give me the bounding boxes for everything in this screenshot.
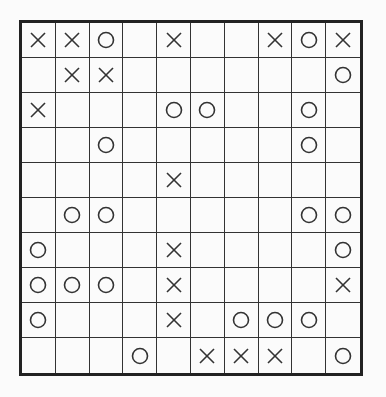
grid-cell-r2-c5[interactable] [191,93,225,128]
grid-cell-r8-c1[interactable] [56,303,90,338]
grid-cell-r8-c6[interactable] [225,303,259,338]
grid-cell-r1-c9[interactable] [326,58,360,93]
grid-cell-r5-c0[interactable] [22,198,56,233]
grid-cell-r2-c4[interactable] [157,93,191,128]
grid-cell-r2-c7[interactable] [259,93,293,128]
grid-cell-r7-c8[interactable] [292,268,326,303]
grid-cell-r8-c3[interactable] [123,303,157,338]
grid-cell-r1-c0[interactable] [22,58,56,93]
grid-cell-r0-c7[interactable] [259,23,293,58]
grid-cell-r6-c5[interactable] [191,233,225,268]
grid-cell-r4-c7[interactable] [259,163,293,198]
grid-cell-r6-c9[interactable] [326,233,360,268]
grid-cell-r3-c4[interactable] [157,128,191,163]
grid-cell-r8-c8[interactable] [292,303,326,338]
grid-cell-r6-c6[interactable] [225,233,259,268]
grid-cell-r5-c3[interactable] [123,198,157,233]
grid-cell-r7-c3[interactable] [123,268,157,303]
grid-cell-r2-c2[interactable] [90,93,124,128]
grid-cell-r4-c2[interactable] [90,163,124,198]
grid-cell-r0-c6[interactable] [225,23,259,58]
grid-cell-r8-c5[interactable] [191,303,225,338]
grid-cell-r8-c7[interactable] [259,303,293,338]
grid-cell-r5-c1[interactable] [56,198,90,233]
grid-cell-r4-c5[interactable] [191,163,225,198]
grid-cell-r8-c2[interactable] [90,303,124,338]
grid-cell-r2-c6[interactable] [225,93,259,128]
grid-cell-r1-c4[interactable] [157,58,191,93]
grid-cell-r0-c5[interactable] [191,23,225,58]
grid-cell-r0-c3[interactable] [123,23,157,58]
grid-cell-r7-c9[interactable] [326,268,360,303]
grid-cell-r0-c8[interactable] [292,23,326,58]
grid-cell-r0-c2[interactable] [90,23,124,58]
grid-cell-r1-c5[interactable] [191,58,225,93]
grid-cell-r5-c2[interactable] [90,198,124,233]
grid-cell-r7-c6[interactable] [225,268,259,303]
grid-cell-r2-c0[interactable] [22,93,56,128]
grid-cell-r6-c1[interactable] [56,233,90,268]
grid-cell-r9-c1[interactable] [56,338,90,373]
grid-cell-r1-c1[interactable] [56,58,90,93]
grid-cell-r3-c8[interactable] [292,128,326,163]
grid-cell-r4-c1[interactable] [56,163,90,198]
grid-cell-r6-c8[interactable] [292,233,326,268]
grid-cell-r9-c9[interactable] [326,338,360,373]
grid-cell-r4-c4[interactable] [157,163,191,198]
grid-cell-r4-c9[interactable] [326,163,360,198]
grid-cell-r9-c4[interactable] [157,338,191,373]
grid-cell-r2-c1[interactable] [56,93,90,128]
grid-cell-r0-c1[interactable] [56,23,90,58]
grid-cell-r7-c5[interactable] [191,268,225,303]
grid-cell-r5-c9[interactable] [326,198,360,233]
grid-cell-r0-c0[interactable] [22,23,56,58]
grid-cell-r3-c5[interactable] [191,128,225,163]
grid-cell-r1-c8[interactable] [292,58,326,93]
grid-cell-r3-c9[interactable] [326,128,360,163]
grid-cell-r9-c3[interactable] [123,338,157,373]
grid-cell-r5-c4[interactable] [157,198,191,233]
grid-cell-r9-c5[interactable] [191,338,225,373]
grid-cell-r5-c7[interactable] [259,198,293,233]
grid-cell-r8-c0[interactable] [22,303,56,338]
grid-cell-r8-c9[interactable] [326,303,360,338]
grid-cell-r7-c0[interactable] [22,268,56,303]
grid-cell-r2-c3[interactable] [123,93,157,128]
grid-cell-r3-c7[interactable] [259,128,293,163]
grid-cell-r6-c0[interactable] [22,233,56,268]
grid-cell-r0-c9[interactable] [326,23,360,58]
grid-cell-r7-c2[interactable] [90,268,124,303]
grid-cell-r5-c8[interactable] [292,198,326,233]
grid-cell-r7-c1[interactable] [56,268,90,303]
grid-cell-r1-c7[interactable] [259,58,293,93]
grid-cell-r7-c7[interactable] [259,268,293,303]
grid-cell-r9-c7[interactable] [259,338,293,373]
grid-cell-r9-c6[interactable] [225,338,259,373]
grid-cell-r4-c6[interactable] [225,163,259,198]
grid-cell-r6-c4[interactable] [157,233,191,268]
grid-cell-r3-c3[interactable] [123,128,157,163]
grid-cell-r0-c4[interactable] [157,23,191,58]
grid-cell-r5-c5[interactable] [191,198,225,233]
grid-cell-r1-c2[interactable] [90,58,124,93]
grid-cell-r3-c0[interactable] [22,128,56,163]
grid-cell-r6-c7[interactable] [259,233,293,268]
grid-cell-r4-c8[interactable] [292,163,326,198]
grid-cell-r4-c0[interactable] [22,163,56,198]
grid-cell-r2-c9[interactable] [326,93,360,128]
grid-cell-r1-c6[interactable] [225,58,259,93]
grid-cell-r3-c1[interactable] [56,128,90,163]
grid-cell-r5-c6[interactable] [225,198,259,233]
grid-cell-r2-c8[interactable] [292,93,326,128]
grid-cell-r6-c2[interactable] [90,233,124,268]
grid-cell-r8-c4[interactable] [157,303,191,338]
grid-cell-r7-c4[interactable] [157,268,191,303]
grid-cell-r9-c0[interactable] [22,338,56,373]
grid-cell-r9-c2[interactable] [90,338,124,373]
grid-cell-r4-c3[interactable] [123,163,157,198]
grid-cell-r1-c3[interactable] [123,58,157,93]
grid-cell-r9-c8[interactable] [292,338,326,373]
grid-cell-r6-c3[interactable] [123,233,157,268]
grid-cell-r3-c6[interactable] [225,128,259,163]
grid-cell-r3-c2[interactable] [90,128,124,163]
